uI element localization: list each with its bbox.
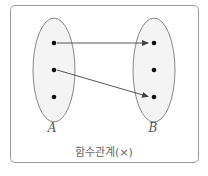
set-a-label: A: [48, 121, 57, 135]
set-b-label: B: [149, 121, 158, 135]
diagram-caption: 함수관계(×): [75, 143, 133, 159]
element-dot: [152, 68, 157, 73]
element-dot: [152, 95, 157, 100]
element-dot: [152, 41, 157, 46]
element-dot: [52, 41, 57, 46]
element-dot: [52, 95, 57, 100]
element-dot: [52, 68, 57, 73]
